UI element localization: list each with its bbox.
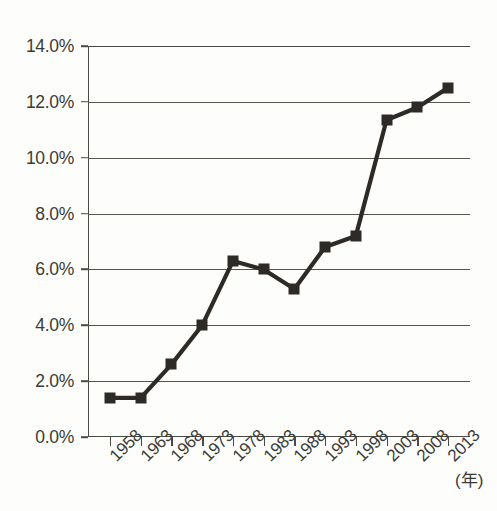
y-axis-tick-mark bbox=[81, 101, 88, 103]
x-axis-tick-mark bbox=[110, 437, 111, 446]
y-axis-tick-mark bbox=[81, 213, 88, 215]
y-axis-tick-mark bbox=[81, 269, 88, 271]
y-axis-tick-label: 6.0% bbox=[35, 259, 74, 280]
data-point-marker bbox=[320, 242, 331, 253]
y-axis-tick-label: 8.0% bbox=[35, 203, 74, 224]
y-axis-tick-label: 10.0% bbox=[26, 147, 74, 168]
plot-area bbox=[88, 46, 470, 437]
line-chart: 0.0%2.0%4.0%6.0%8.0%10.0%12.0%14.0% 1958… bbox=[0, 0, 497, 511]
y-axis-tick-mark bbox=[81, 45, 88, 47]
y-axis: 0.0%2.0%4.0%6.0%8.0%10.0%12.0%14.0% bbox=[0, 0, 88, 511]
data-point-marker bbox=[289, 283, 300, 294]
data-point-marker bbox=[166, 359, 177, 370]
y-axis-tick-label: 4.0% bbox=[35, 315, 74, 336]
data-point-marker bbox=[443, 82, 454, 93]
data-point-marker bbox=[105, 392, 116, 403]
data-point-marker bbox=[227, 256, 238, 267]
y-axis-tick-label: 12.0% bbox=[26, 91, 74, 112]
data-point-marker bbox=[135, 392, 146, 403]
data-point-marker bbox=[258, 264, 269, 275]
x-axis-tick-mark bbox=[325, 437, 326, 446]
x-axis-tick-mark bbox=[387, 437, 388, 446]
y-axis-tick-mark bbox=[81, 380, 88, 382]
x-axis-tick-mark bbox=[141, 437, 142, 446]
gridline bbox=[88, 381, 470, 382]
y-axis-tick-label: 0.0% bbox=[35, 427, 74, 448]
x-axis-tick-mark bbox=[448, 437, 449, 446]
y-axis-tick-mark bbox=[81, 436, 88, 438]
x-axis-tick-mark bbox=[264, 437, 265, 446]
data-point-marker bbox=[412, 102, 423, 113]
y-axis-tick-mark bbox=[81, 324, 88, 326]
y-axis-tick-label: 2.0% bbox=[35, 371, 74, 392]
x-axis-tick-mark bbox=[233, 437, 234, 446]
y-axis-tick-mark bbox=[81, 157, 88, 159]
gridline bbox=[88, 325, 470, 326]
data-point-marker bbox=[197, 320, 208, 331]
gridline bbox=[88, 269, 470, 270]
y-axis-tick-label: 14.0% bbox=[26, 36, 74, 57]
gridline bbox=[88, 214, 470, 215]
data-point-marker bbox=[381, 115, 392, 126]
x-axis-tick-mark bbox=[356, 437, 357, 446]
x-axis-unit-label: (年) bbox=[455, 466, 483, 491]
x-axis-tick-mark bbox=[202, 437, 203, 446]
data-point-marker bbox=[350, 230, 361, 241]
gridline bbox=[88, 158, 470, 159]
